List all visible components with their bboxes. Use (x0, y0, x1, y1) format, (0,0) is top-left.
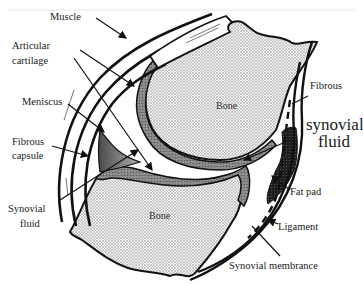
meniscus (99, 130, 141, 172)
label-fat-pad: Fat pad (290, 186, 321, 198)
pointer-muscle (96, 18, 126, 38)
pointer-fibrous-capsule (52, 146, 88, 156)
label-meniscus: Meniscus (22, 96, 62, 108)
label-synovial-fluid-right-2: fluid (306, 133, 362, 150)
label-fibrous-right: Fibrous (310, 80, 342, 92)
label-synovial-fluid-left-2: fluid (20, 218, 40, 230)
pointer-synovial-membrane (252, 226, 280, 256)
label-ligament: Ligament (278, 221, 318, 233)
label-articular-cartilage-2: cartilage (12, 55, 48, 67)
label-synovial-membrane: Synovial membrance (229, 260, 318, 272)
label-bone-upper: Bone (216, 100, 237, 112)
label-fibrous-capsule-1: Fibrous (12, 136, 44, 148)
label-fibrous-capsule-2: capsule (12, 150, 44, 162)
lower-bone (70, 172, 242, 276)
label-articular-cartilage-1: Articular (12, 40, 50, 52)
label-bone-lower: Bone (149, 210, 170, 222)
synovial-joint-diagram: Muscle Articular cartilage Meniscus Fibr… (0, 0, 363, 285)
label-muscle: Muscle (50, 11, 81, 23)
label-synovial-fluid-left-1: Synovial (8, 203, 45, 215)
label-synovial-fluid-right-1: synovial (306, 116, 362, 133)
